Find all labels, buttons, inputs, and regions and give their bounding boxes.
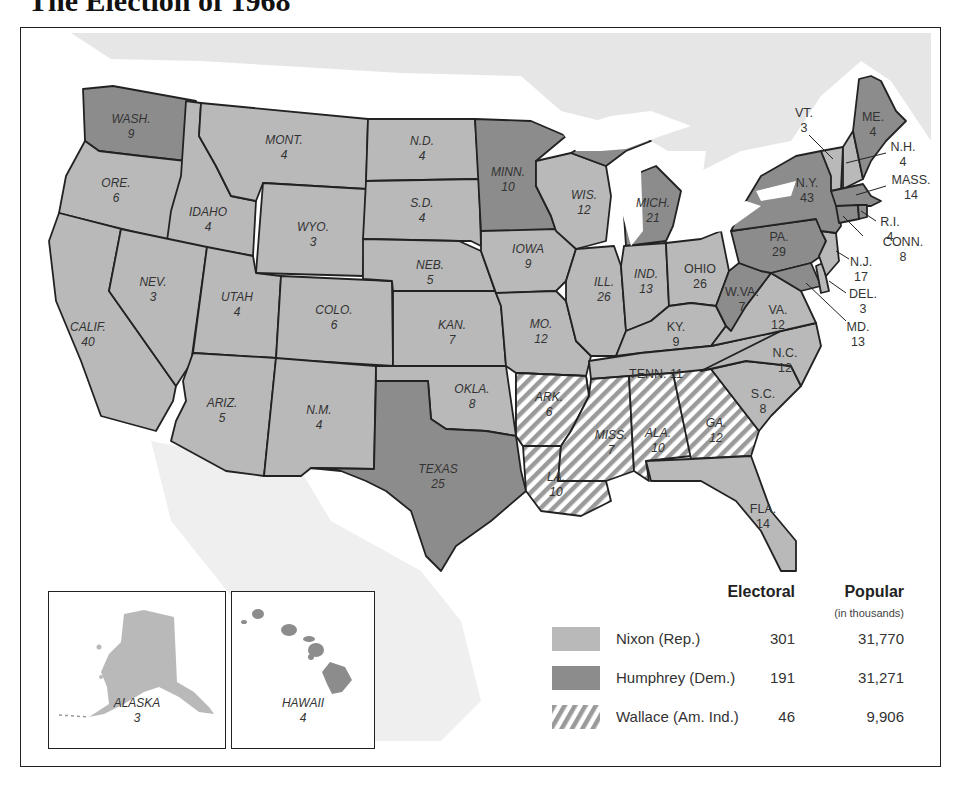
legend-candidate: Nixon (Rep.) (616, 630, 700, 647)
svg-text:ME.: ME. (862, 110, 884, 124)
legend-electoral: 191 (770, 669, 795, 686)
legend-popular: 31,770 (858, 630, 904, 647)
svg-text:N.H.: N.H. (891, 140, 916, 154)
legend-candidate: Humphrey (Dem.) (616, 669, 735, 686)
svg-text:3: 3 (150, 290, 157, 304)
svg-text:MO.: MO. (530, 317, 553, 331)
svg-text:KAN.: KAN. (438, 318, 466, 332)
svg-text:43: 43 (800, 191, 814, 205)
legend-popular-subheader: (in thousands) (834, 607, 904, 619)
svg-text:10: 10 (549, 485, 563, 499)
legend-electoral-header: Electoral (727, 583, 795, 601)
wallace-swatch (552, 705, 600, 729)
svg-text:ILL.: ILL. (594, 275, 614, 289)
svg-text:CONN.: CONN. (883, 235, 923, 249)
svg-text:ARIZ.: ARIZ. (206, 396, 238, 410)
svg-text:R.I.: R.I. (880, 215, 899, 229)
legend-popular-header: Popular (844, 583, 904, 601)
svg-text:21: 21 (645, 211, 659, 225)
svg-text:MINN.: MINN. (491, 165, 525, 179)
svg-text:MICH.: MICH. (636, 196, 670, 210)
svg-text:MASS.: MASS. (892, 173, 931, 187)
svg-text:COLO.: COLO. (315, 303, 352, 317)
svg-text:IOWA: IOWA (512, 242, 544, 256)
svg-text:10: 10 (501, 180, 515, 194)
svg-text:13: 13 (639, 282, 653, 296)
alaska-ev: 3 (49, 711, 225, 726)
svg-text:OKLA.: OKLA. (454, 382, 489, 396)
svg-text:N.D.: N.D. (410, 134, 434, 148)
svg-text:3: 3 (860, 302, 867, 316)
svg-text:PA.: PA. (769, 230, 788, 244)
humphrey-swatch (552, 666, 600, 690)
svg-text:9: 9 (128, 127, 135, 141)
svg-text:5: 5 (219, 411, 226, 425)
svg-text:12: 12 (709, 431, 723, 445)
alaska-inset: ALASKA 3 (48, 591, 226, 749)
map-title: The Election of 1968 (28, 0, 291, 18)
svg-text:4: 4 (205, 220, 212, 234)
svg-text:14: 14 (904, 188, 918, 202)
svg-text:N.Y.: N.Y. (796, 176, 819, 190)
legend-row-humphrey: Humphrey (Dem.) 191 31,271 (552, 666, 912, 692)
legend: Electoral Popular (in thousands) Nixon (… (552, 583, 912, 733)
svg-text:IND.: IND. (634, 267, 658, 281)
state-il[interactable] (566, 246, 626, 356)
hawaii-inset: HAWAII 4 (231, 591, 375, 749)
legend-row-nixon: Nixon (Rep.) 301 31,770 (552, 627, 912, 653)
svg-text:26: 26 (596, 290, 611, 304)
svg-text:7: 7 (739, 300, 746, 314)
svg-text:IDAHO: IDAHO (189, 205, 227, 219)
legend-row-wallace: Wallace (Am. Ind.) 46 9,906 (552, 705, 912, 731)
legend-popular: 31,271 (858, 669, 904, 686)
svg-text:3: 3 (310, 235, 317, 249)
svg-text:MD.: MD. (847, 320, 870, 334)
svg-text:26: 26 (693, 277, 707, 291)
svg-text:UTAH: UTAH (221, 290, 253, 304)
svg-text:4: 4 (870, 125, 877, 139)
svg-text:8: 8 (760, 402, 767, 416)
svg-text:ORE.: ORE. (101, 176, 130, 190)
svg-text:MONT.: MONT. (265, 133, 303, 147)
legend-popular: 9,906 (866, 708, 904, 725)
hawaii-ev: 4 (232, 711, 374, 726)
svg-text:8: 8 (900, 250, 907, 264)
svg-text:VA.: VA. (768, 303, 787, 317)
svg-text:17: 17 (854, 270, 868, 284)
svg-text:KY.: KY. (667, 320, 686, 334)
svg-text:W.VA.: W.VA. (725, 285, 759, 299)
svg-text:10: 10 (651, 441, 665, 455)
svg-text:4: 4 (281, 148, 288, 162)
svg-text:GA.: GA. (706, 416, 727, 430)
hawaii-label: HAWAII (232, 696, 374, 711)
svg-text:12: 12 (577, 203, 591, 217)
svg-text:13: 13 (851, 335, 865, 349)
svg-text:WYO.: WYO. (297, 220, 329, 234)
svg-text:CALIF.: CALIF. (70, 320, 106, 334)
svg-text:MISS.: MISS. (595, 428, 628, 442)
svg-text:N.J.: N.J. (850, 255, 872, 269)
svg-text:NEB.: NEB. (416, 258, 444, 272)
svg-text:6: 6 (546, 405, 553, 419)
svg-text:14: 14 (756, 517, 770, 531)
nixon-swatch (552, 627, 600, 651)
svg-text:6: 6 (331, 318, 338, 332)
svg-text:WASH.: WASH. (111, 112, 150, 126)
state-nm[interactable] (264, 358, 376, 476)
svg-text:12: 12 (778, 361, 792, 375)
svg-text:4: 4 (419, 211, 426, 225)
svg-text:5: 5 (427, 273, 434, 287)
svg-text:6: 6 (113, 191, 120, 205)
svg-text:12: 12 (534, 332, 548, 346)
svg-text:S.D.: S.D. (410, 196, 433, 210)
svg-text:VT.: VT. (795, 106, 813, 120)
svg-text:9: 9 (673, 335, 680, 349)
svg-text:TEXAS: TEXAS (418, 462, 457, 476)
svg-text:FLA.: FLA. (750, 502, 776, 516)
svg-text:29: 29 (772, 245, 786, 259)
svg-text:4: 4 (900, 155, 907, 169)
svg-text:4: 4 (234, 305, 241, 319)
svg-text:N.M.: N.M. (306, 403, 331, 417)
svg-text:9: 9 (525, 257, 532, 271)
svg-text:WIS.: WIS. (571, 188, 597, 202)
